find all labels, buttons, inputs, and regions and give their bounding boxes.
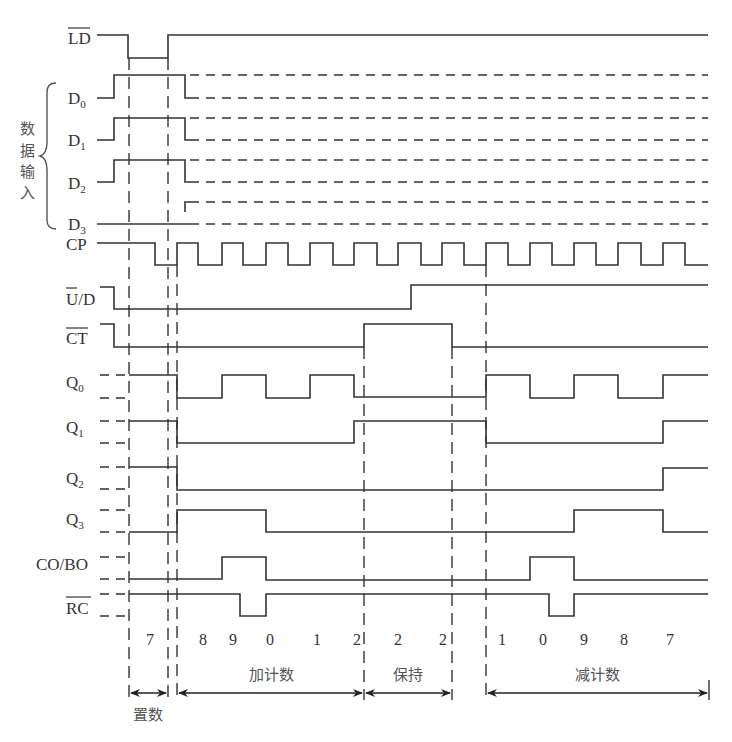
data-input-group: 数 据 输 入 [20, 83, 56, 229]
group-label-char: 输 [20, 163, 35, 181]
waveform-d0 [97, 75, 708, 98]
phase-label-hold: 保持 [393, 666, 423, 684]
reference-lines [129, 58, 709, 700]
waveform-ld [97, 35, 708, 58]
label-q0: Q0 [66, 373, 84, 394]
label-d2: D2 [68, 174, 86, 195]
group-label-char: 数 [20, 120, 35, 138]
waveform-cobo [100, 557, 708, 580]
phase-load: 置数 [131, 693, 166, 724]
waveform-q3 [100, 510, 708, 532]
group-label-char: 据 [20, 142, 35, 160]
label-ld: LD [68, 29, 91, 48]
count-values: 7 8 9 0 1 2 2 2 1 0 9 8 7 [146, 631, 674, 648]
count-value: 7 [666, 631, 674, 648]
phase-label-load: 置数 [133, 706, 163, 724]
count-value: 9 [229, 631, 237, 648]
count-value: 8 [620, 631, 628, 648]
phase-hold: 保持 [366, 666, 450, 693]
brace-icon [40, 83, 56, 229]
label-cobo: CO/BO [36, 555, 88, 574]
count-value: 0 [539, 631, 547, 648]
label-q3: Q3 [66, 510, 84, 531]
waveform-rc [100, 594, 708, 616]
phase-label-count-down: 减计数 [575, 666, 620, 684]
label-rc: RC [66, 599, 89, 618]
count-value: 2 [394, 631, 402, 648]
waveform-q0 [100, 375, 708, 398]
waveform-q1 [100, 421, 708, 443]
label-ct: CT [66, 329, 88, 348]
phase-count-up: 加计数 [179, 666, 362, 693]
waveform-ud [100, 285, 708, 309]
count-value: 9 [580, 631, 588, 648]
count-value: 1 [498, 631, 506, 648]
count-value: 7 [146, 631, 154, 648]
waveform-d1 [97, 118, 708, 140]
waveform-ct [100, 324, 708, 347]
count-value: 0 [266, 631, 274, 648]
label-d3: D3 [68, 215, 86, 236]
label-d1: D1 [68, 131, 86, 152]
count-value: 1 [313, 631, 321, 648]
phase-count-down: 减计数 [488, 666, 707, 693]
label-q1: Q1 [66, 418, 84, 439]
waveform-d3 [97, 202, 708, 224]
count-value: 2 [439, 631, 447, 648]
label-ud: U/D [66, 290, 95, 309]
waveform-cp [97, 243, 708, 265]
group-label-char: 入 [20, 184, 35, 202]
waveform-q2 [100, 467, 708, 490]
signal-labels: LD D0 D1 D2 D3 CP U/D CT Q0 Q1 Q2 Q3 CO/… [36, 28, 95, 618]
waveform-d2 [97, 160, 708, 182]
phase-label-count-up: 加计数 [249, 666, 294, 684]
label-q2: Q2 [66, 469, 84, 490]
timing-diagram: LD D0 D1 D2 D3 CP U/D CT Q0 Q1 Q2 Q3 CO/… [0, 0, 732, 742]
label-cp: CP [66, 235, 87, 254]
count-value: 8 [199, 631, 207, 648]
count-value: 2 [353, 631, 361, 648]
label-d0: D0 [68, 89, 86, 110]
